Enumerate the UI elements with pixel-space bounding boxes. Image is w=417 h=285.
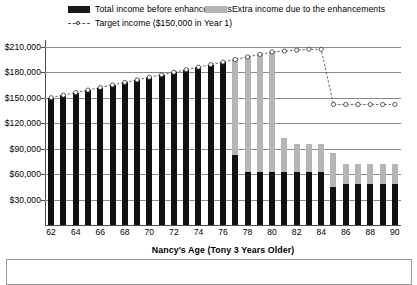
x-tick-label: 64 (71, 227, 81, 237)
y-tick-label: $30,000 (10, 195, 41, 205)
x-tick-label: 76 (218, 227, 228, 237)
legend-swatch-black-icon (68, 6, 90, 13)
legend-item-target-income: Target income ($150,000 in Year 1) (68, 19, 232, 28)
y-tick-label: $210,000 (5, 42, 41, 52)
plot-area: $30,000$60,000$90,000$120,000$150,000$18… (45, 40, 401, 226)
legend-label-target-income: Target income ($150,000 in Year 1) (95, 19, 232, 28)
x-tick-label: 82 (292, 227, 302, 237)
x-axis-label: Nancy's Age (Tony 3 Years Older) (45, 245, 401, 255)
chart-legend: Total income before enhancements Extra i… (0, 0, 417, 34)
y-tick-label: $60,000 (10, 169, 41, 179)
x-tick-label: 74 (194, 227, 204, 237)
legend-swatch-gray-icon (205, 6, 227, 13)
x-tick-label: 68 (120, 227, 130, 237)
legend-label-extra-income: Extra income due to the enhancements (232, 5, 385, 14)
y-tick-label: $120,000 (5, 118, 41, 128)
x-tick-label: 86 (341, 227, 351, 237)
x-tick-label: 80 (267, 227, 277, 237)
x-tick-label: 70 (145, 227, 155, 237)
x-tick-label: 84 (316, 227, 326, 237)
y-tick-label: $150,000 (5, 93, 41, 103)
legend-dashed-line-icon (68, 20, 90, 27)
y-tick-label: $90,000 (10, 144, 41, 154)
y-tick-label: $180,000 (5, 67, 41, 77)
x-tick-label: 66 (95, 227, 105, 237)
x-tick-label: 62 (46, 227, 56, 237)
x-tick-label: 72 (169, 227, 179, 237)
x-tick-label: 88 (366, 227, 376, 237)
x-tick-label: 90 (390, 227, 400, 237)
target-income-line (45, 40, 401, 226)
footer-box (6, 259, 412, 285)
legend-item-extra-income: Extra income due to the enhancements (205, 5, 385, 14)
x-tick-label: 78 (243, 227, 253, 237)
